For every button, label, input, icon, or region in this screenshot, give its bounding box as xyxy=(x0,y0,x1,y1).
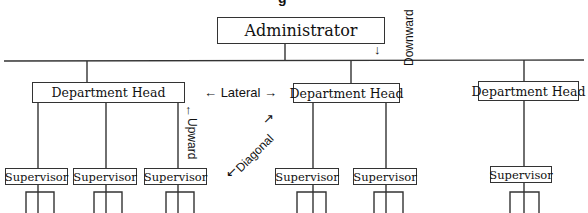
department-head-label: Department Head xyxy=(290,86,404,101)
lateral-label-group: ← Lateral → xyxy=(204,85,277,100)
department-head-label: Department Head xyxy=(52,85,166,100)
department-head-label: Department Head xyxy=(472,84,586,99)
supervisor-box-6: Supervisor xyxy=(490,166,552,183)
supervisor-label: Supervisor xyxy=(5,170,68,184)
supervisor-box-1: Supervisor xyxy=(5,168,68,185)
supervisor-box-3: Supervisor xyxy=(144,168,207,185)
upward-label: Upward xyxy=(185,118,199,159)
supervisor-label: Supervisor xyxy=(353,170,416,184)
supervisor-box-5: Supervisor xyxy=(353,168,417,185)
department-head-box-2: Department Head xyxy=(293,83,400,103)
supervisor-box-2: Supervisor xyxy=(73,168,137,185)
department-head-box-3: Department Head xyxy=(478,81,579,101)
department-head-box-1: Department Head xyxy=(32,82,185,103)
supervisor-label: Supervisor xyxy=(489,168,552,182)
title-fragment: g xyxy=(278,0,287,6)
supervisor-label: Supervisor xyxy=(73,170,136,184)
administrator-label: Administrator xyxy=(244,21,357,40)
down-left-arrow-icon: ↙ xyxy=(226,164,237,179)
supervisor-label: Supervisor xyxy=(144,170,207,184)
supervisor-label: Supervisor xyxy=(275,170,338,184)
administrator-box: Administrator xyxy=(217,17,385,44)
downward-label: Downward xyxy=(402,9,416,66)
left-arrow-icon: ← xyxy=(204,85,217,100)
supervisor-box-4: Supervisor xyxy=(275,168,339,185)
up-right-arrow-icon: ↗ xyxy=(263,111,274,126)
down-arrow-icon: ↓ xyxy=(374,42,381,57)
right-arrow-icon: → xyxy=(264,85,277,100)
communication-flow-diagram: g Administrator Downward ↓ Department He… xyxy=(0,0,588,213)
up-arrow-icon: ↑ xyxy=(185,102,192,117)
lateral-label: Lateral xyxy=(221,85,261,100)
